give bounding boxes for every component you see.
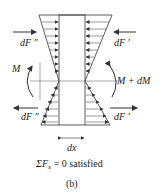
moment-arrow-right xyxy=(110,66,116,97)
left-tension-stress-block xyxy=(41,81,59,125)
equilibrium-equation: ΣFx = 0 satisfied xyxy=(35,158,103,171)
equation-rest: = 0 satisfied xyxy=(51,158,102,169)
moment-arrow-left xyxy=(27,66,33,97)
right-compression-stress-block xyxy=(85,15,112,81)
force-label-bottom-right: dF ′ xyxy=(114,111,131,122)
beam-element-diagram: dF ″ dF ′ dF ″ dF ′ M M + dM dx ΣFx = 0 … xyxy=(0,0,166,193)
force-label-top-right: dF ′ xyxy=(114,37,131,48)
figure-caption: (b) xyxy=(66,178,78,190)
right-tension-stress-block xyxy=(85,81,110,125)
beam-element xyxy=(59,15,85,125)
sum-f: ΣF xyxy=(35,158,49,169)
moment-label-right: M + dM xyxy=(116,75,151,86)
moment-label-left: M xyxy=(11,63,21,74)
left-compression-stress-block xyxy=(39,15,59,81)
force-label-bottom-left: dF ″ xyxy=(21,111,40,122)
force-label-top-left: dF ″ xyxy=(20,37,39,48)
dx-label: dx xyxy=(67,142,77,153)
